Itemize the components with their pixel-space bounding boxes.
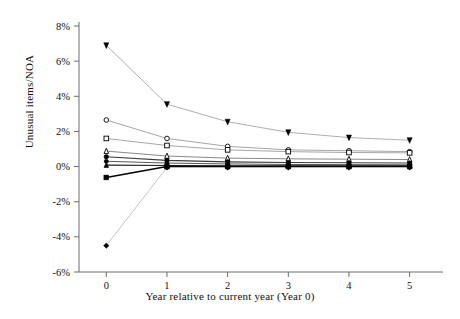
x-axis-label: Year relative to current year (Year 0) xyxy=(0,291,460,302)
y-tick-label: -2% xyxy=(53,196,71,207)
filled-square-marker xyxy=(104,175,109,180)
y-axis-label: Unusual items/NOA xyxy=(24,27,35,177)
open-circle-marker xyxy=(165,136,170,141)
x-tick-label: 4 xyxy=(346,280,352,291)
series-line-series-8 xyxy=(106,167,409,178)
y-tick-label: 4% xyxy=(56,91,70,102)
open-triangle-up-marker xyxy=(104,148,109,153)
x-tick-label: 0 xyxy=(104,280,109,291)
y-tick-label: 2% xyxy=(56,126,70,137)
series-lines xyxy=(106,45,409,245)
series-line-series-9 xyxy=(106,167,409,245)
y-tick-label: -6% xyxy=(53,267,71,278)
open-square-marker xyxy=(407,151,412,156)
open-square-marker xyxy=(347,150,352,155)
line-chart-canvas: -6%-4%-2%0%2%4%6%8% 012345 xyxy=(0,0,460,319)
markers-series-1 xyxy=(104,43,412,143)
open-square-marker xyxy=(104,136,109,141)
chart-figure: -6%-4%-2%0%2%4%6%8% 012345 Unusual items… xyxy=(0,0,460,319)
series-line-series-5 xyxy=(106,157,409,163)
open-square-marker xyxy=(165,143,170,148)
y-tick-label: 0% xyxy=(56,161,70,172)
series-line-series-7 xyxy=(106,165,409,166)
y-axis-tick-group: -6%-4%-2%0%2%4%6%8% xyxy=(53,21,80,278)
series-layer xyxy=(104,43,413,249)
axis-frame xyxy=(79,22,443,272)
series-line-series-1 xyxy=(106,45,409,140)
y-tick-label: 8% xyxy=(56,21,70,32)
open-square-marker xyxy=(286,149,291,154)
open-triangle-up-marker xyxy=(165,153,170,158)
y-tick-label: -4% xyxy=(53,231,71,242)
x-tick-label: 5 xyxy=(407,280,412,291)
open-square-marker xyxy=(225,148,230,153)
x-axis-tick-group: 012345 xyxy=(104,272,413,291)
axis-spines xyxy=(79,22,443,272)
series-line-series-2 xyxy=(106,120,409,152)
series-markers xyxy=(104,43,413,249)
filled-circle-marker xyxy=(104,154,109,159)
open-circle-marker xyxy=(104,118,109,123)
markers-series-9 xyxy=(104,165,413,249)
y-tick-label: 6% xyxy=(56,56,70,67)
filled-triangle-down-marker xyxy=(104,43,109,49)
